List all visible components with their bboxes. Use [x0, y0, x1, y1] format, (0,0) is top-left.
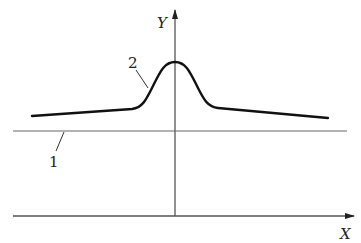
leader-line-1 — [56, 132, 64, 151]
label-2: 2 — [128, 54, 138, 72]
label-1: 1 — [49, 153, 59, 171]
leader-line-2 — [136, 70, 148, 88]
x-axis-label: X — [339, 225, 352, 243]
bell-curve-2 — [32, 62, 328, 118]
y-axis-label: Y — [157, 14, 169, 32]
diagram-canvas: 1 2 Y X — [0, 0, 361, 243]
